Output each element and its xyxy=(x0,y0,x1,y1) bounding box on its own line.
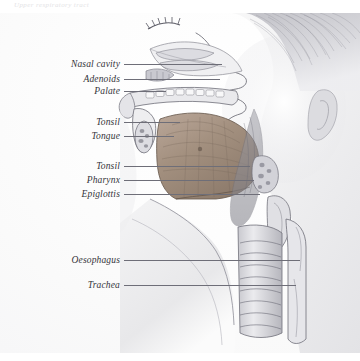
soft-palate-uvula xyxy=(133,108,156,153)
figure-page: Upper respiratory tract xyxy=(0,0,360,361)
leader-line-tongue xyxy=(124,136,174,137)
label-pharynx: Pharynx xyxy=(87,175,120,185)
leader-line-nasal-cavity xyxy=(124,64,222,65)
label-epiglottis: Epiglottis xyxy=(82,189,120,199)
label-trachea: Trachea xyxy=(88,280,120,290)
trachea xyxy=(238,225,282,338)
label-nasal-cavity: Nasal cavity xyxy=(71,59,120,69)
leader-line-tonsil-lower xyxy=(124,166,250,167)
label-oesophagus: Oesophagus xyxy=(72,255,120,265)
label-tonsil-upper: Tonsil xyxy=(96,117,120,127)
leader-line-pharynx xyxy=(124,180,254,181)
leader-line-adenoids xyxy=(124,79,220,80)
neck-contour xyxy=(120,199,236,353)
leader-line-trachea xyxy=(124,285,296,286)
label-adenoids: Adenoids xyxy=(83,74,120,84)
leader-line-epiglottis xyxy=(124,194,260,195)
eye-lashes xyxy=(146,17,180,29)
label-palate: Palate xyxy=(94,86,120,96)
leader-line-palate xyxy=(124,91,166,92)
leader-line-oesophagus xyxy=(124,260,300,261)
leader-line-tonsil-upper xyxy=(124,122,180,123)
top-caption-strip: Upper respiratory tract xyxy=(0,0,360,11)
label-tonsil-lower: Tonsil xyxy=(96,161,120,171)
label-tongue: Tongue xyxy=(91,131,120,141)
oesophagus xyxy=(286,219,306,344)
